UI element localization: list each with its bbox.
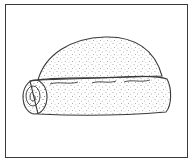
pastry-dome	[38, 37, 162, 80]
pastry-roll-illustration	[0, 0, 196, 167]
